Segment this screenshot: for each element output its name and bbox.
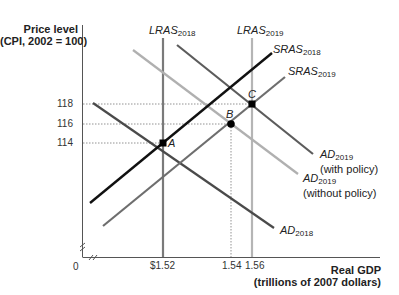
point-b-marker bbox=[227, 120, 235, 128]
point-b-label: B bbox=[226, 108, 233, 120]
lras-2018-label: LRAS2018 bbox=[149, 24, 196, 39]
ad-label-text: AD bbox=[320, 148, 335, 160]
ad-2019-without-policy-label: AD2019 (without policy) bbox=[303, 172, 376, 199]
sras-2018-label-year: 2018 bbox=[303, 48, 321, 57]
point-a-label: A bbox=[168, 137, 175, 149]
point-a-marker bbox=[160, 140, 167, 147]
y-tick-118: 118 bbox=[57, 98, 73, 109]
ad-2018-label-text: AD bbox=[280, 224, 295, 236]
x-tick-152: $1.52 bbox=[150, 260, 175, 271]
point-c-marker bbox=[249, 101, 256, 108]
sras-2018-line bbox=[90, 53, 272, 203]
ad-2018-label-year: 2018 bbox=[295, 229, 313, 238]
y-axis-label: Price level (CPI, 2002 = 100) bbox=[0, 23, 78, 47]
ad-2019-with-policy-label: AD2019 (with policy) bbox=[320, 148, 378, 175]
y-tick-116: 116 bbox=[57, 118, 73, 129]
lras-2018-label-year: 2018 bbox=[178, 29, 196, 38]
y-tick-114: 114 bbox=[57, 137, 73, 148]
origin-label: 0 bbox=[73, 261, 79, 272]
sras-2019-label: SRAS2019 bbox=[288, 65, 336, 80]
sras-2019-label-text: SRAS bbox=[288, 65, 318, 77]
ad-2019-with-policy-label-main: AD2019 bbox=[320, 148, 378, 163]
x-axis-label-line2: (trillions of 2007 dollars) bbox=[254, 276, 381, 288]
lras-2019-label: LRAS2019 bbox=[237, 24, 284, 39]
x-axis-label-line1: Real GDP bbox=[254, 264, 381, 276]
ad-label-text: AD bbox=[303, 172, 318, 184]
x-tick-154: 1.54 bbox=[222, 260, 241, 271]
lras-2019-label-year: 2019 bbox=[266, 29, 284, 38]
point-c-label: C bbox=[248, 88, 256, 100]
lras-2019-label-text: LRAS bbox=[237, 24, 266, 36]
ad-label-year: 2019 bbox=[318, 177, 336, 186]
ad-2018-label: AD2018 bbox=[280, 224, 313, 239]
sras-2018-label: SRAS2018 bbox=[273, 43, 321, 58]
lras-2018-label-text: LRAS bbox=[149, 24, 178, 36]
ad-2019-without-policy-line bbox=[133, 50, 298, 174]
y-axis-label-line2: (CPI, 2002 = 100) bbox=[0, 35, 78, 47]
x-tick-156: 1.56 bbox=[245, 260, 264, 271]
ad-label-year: 2019 bbox=[335, 153, 353, 162]
sras-2019-line bbox=[103, 77, 285, 226]
guide-lines bbox=[83, 104, 252, 257]
without-policy-note: (without policy) bbox=[303, 187, 376, 199]
sras-2019-label-year: 2019 bbox=[318, 70, 336, 79]
x-axis-label: Real GDP (trillions of 2007 dollars) bbox=[254, 264, 381, 288]
ad-2019-without-policy-label-main: AD2019 bbox=[303, 172, 376, 187]
sras-2018-label-text: SRAS bbox=[273, 43, 303, 55]
ad-2018-line bbox=[93, 103, 274, 228]
y-axis-label-line1: Price level bbox=[0, 23, 78, 35]
